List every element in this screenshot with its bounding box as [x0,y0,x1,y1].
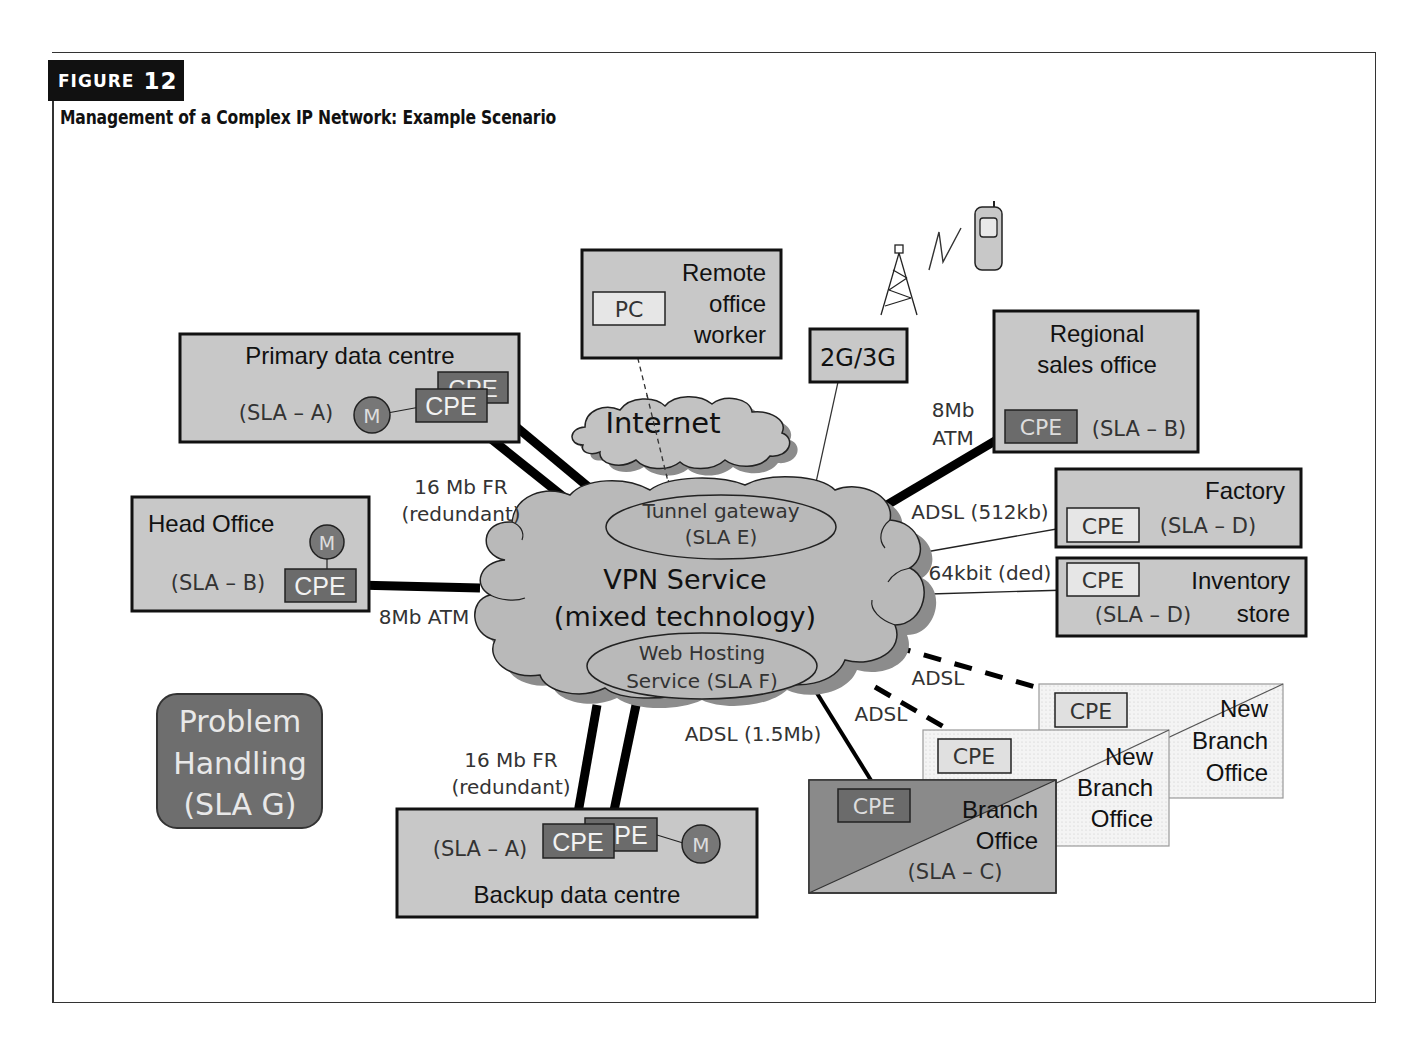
site-head-office[interactable]: Head Office (SLA – B) M CPE [132,497,369,611]
signal-wave-icon [929,228,961,270]
tunnel-gateway-line1: Tunnel gateway [642,499,800,523]
link-inventory [930,590,1068,594]
link-label-branch: ADSL (1.5Mb) [685,722,822,746]
link-label-primary-1: 16 Mb FR [414,475,508,499]
cpe-label: CPE [552,828,603,856]
cpe-label: CPE [953,744,996,769]
monitor-label: M [319,532,335,554]
remote-line1: Remote [682,259,766,286]
problem-line1: Problem [179,704,302,739]
cell-tower-icon [881,245,917,315]
site-regional-sales-office[interactable]: Regional sales office CPE (SLA – B) [994,311,1198,452]
link-label-factory: ADSL (512kb) [911,500,1048,524]
tunnel-gateway-line2: (SLA E) [685,525,758,549]
problem-line3: (SLA G) [183,787,296,822]
cpe-label-back: PE [614,821,647,849]
factory-sla: (SLA – D) [1160,514,1256,538]
cpe-label: CPE [853,794,896,819]
site-backup-data-centre[interactable]: (SLA – A) PE CPE M Backup data centre [397,809,757,917]
web-hosting-line1: Web Hosting [639,641,765,665]
internet-cloud[interactable]: Internet [572,397,798,476]
new-branch-far-line3: Office [1206,759,1268,786]
pc-label: PC [615,297,644,322]
regional-line1: Regional [1050,320,1145,347]
site-factory[interactable]: Factory CPE (SLA – D) [1056,469,1301,547]
cpe-label: CPE [1082,514,1125,539]
problem-line2: Handling [173,746,307,781]
factory-name: Factory [1205,477,1285,504]
remote-line3: worker [693,321,766,348]
site-mobile-2g3g[interactable]: 2G/3G [810,329,907,382]
new-branch-near-line3: Office [1091,805,1153,832]
cpe-label: CPE [294,572,345,600]
new-branch-near-line2: Branch [1077,774,1153,801]
link-label-new-branch-far: ADSL [912,666,966,690]
link-label-primary-2: (redundant) [401,502,520,526]
primary-dc-sla: (SLA – A) [239,401,333,425]
cpe-label: CPE [1070,699,1113,724]
cpe-label: CPE [1020,415,1063,440]
new-branch-far-line1: New [1220,695,1269,722]
link-label-new-branch-near: ADSL [855,702,909,726]
remote-line2: office [709,290,766,317]
link-backup-b [611,705,636,825]
site-primary-data-centre[interactable]: Primary data centre (SLA – A) M CPE CPE [180,334,519,442]
site-remote-office-worker[interactable]: Remote office worker PC [582,250,781,358]
link-label-regional-2: ATM [932,426,974,450]
network-diagram: Primary data centre (SLA – A) M CPE CPE … [0,0,1419,1038]
mobile-phone-icon [975,201,1002,270]
regional-line2: sales office [1037,351,1157,378]
regional-sla: (SLA – B) [1092,417,1187,441]
branch-sla: (SLA – C) [908,860,1003,884]
monitor-label: M [363,404,380,428]
cpe-label: CPE [425,392,476,420]
inventory-line1: Inventory [1191,567,1290,594]
new-branch-far-line2: Branch [1192,727,1268,754]
head-office-sla: (SLA – B) [171,571,266,595]
link-label-head-office: 8Mb ATM [379,605,470,629]
link-label-backup-2: (redundant) [451,775,570,799]
internet-label: Internet [605,406,720,440]
inventory-sla: (SLA – D) [1095,603,1191,627]
link-head-office [355,585,480,588]
mobile-label: 2G/3G [820,344,896,372]
site-branch-office[interactable]: CPE Branch Office (SLA – C) [809,780,1056,893]
link-label-backup-1: 16 Mb FR [464,748,558,772]
vpn-line2: (mixed technology) [554,601,816,632]
head-office-name: Head Office [148,510,274,537]
vpn-service-cloud[interactable]: Tunnel gateway (SLA E) VPN Service (mixe… [475,477,936,708]
problem-handling-box[interactable]: Problem Handling (SLA G) [157,694,322,828]
site-inventory-store[interactable]: CPE Inventory store (SLA – D) [1057,558,1306,636]
link-factory [920,527,1068,553]
inventory-line2: store [1237,600,1290,627]
link-label-regional-1: 8Mb [932,398,975,422]
branch-line1: Branch [962,796,1038,823]
link-mobile [815,382,838,487]
monitor-label: M [692,833,709,857]
branch-line2: Office [976,827,1038,854]
primary-dc-name: Primary data centre [245,342,454,369]
backup-dc-name: Backup data centre [474,881,681,908]
vpn-line1: VPN Service [603,564,766,595]
cpe-label: CPE [1082,568,1125,593]
web-hosting-line2: Service (SLA F) [626,669,778,693]
backup-dc-sla: (SLA – A) [433,837,527,861]
link-label-inventory: 64kbit (ded) [929,561,1052,585]
new-branch-near-line1: New [1105,743,1154,770]
